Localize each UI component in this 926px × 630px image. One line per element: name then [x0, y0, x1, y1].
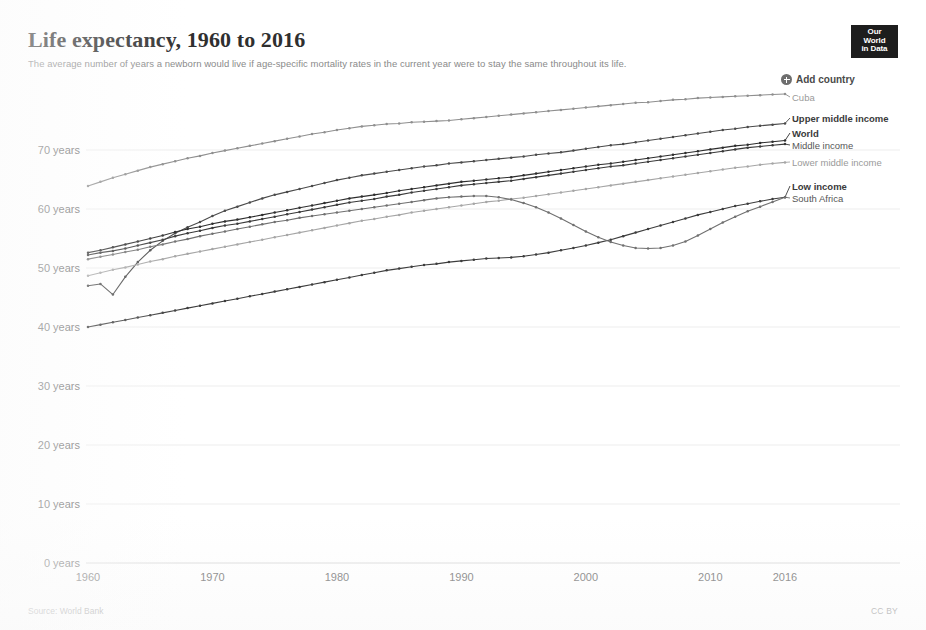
series-marker	[597, 105, 600, 108]
series-marker	[709, 228, 712, 231]
series-marker	[398, 194, 401, 197]
series-marker	[261, 238, 264, 241]
series-marker	[112, 246, 115, 249]
series-marker	[722, 208, 725, 211]
series-marker	[99, 323, 102, 326]
series-marker	[547, 251, 550, 254]
series-markers	[87, 93, 787, 329]
series-marker	[547, 193, 550, 196]
series-marker	[522, 155, 525, 158]
series-marker	[784, 196, 787, 199]
legend-label-cuba[interactable]: Cuba	[792, 93, 815, 103]
series-marker	[286, 191, 289, 194]
series-marker	[398, 214, 401, 217]
x-tick-label: 2000	[574, 571, 598, 583]
series-marker	[647, 228, 650, 231]
series-marker	[149, 260, 152, 263]
series-marker	[535, 172, 538, 175]
series-marker	[535, 176, 538, 179]
series-marker	[547, 174, 550, 177]
series-marker	[273, 236, 276, 239]
series-line[interactable]	[88, 197, 785, 327]
series-marker	[423, 199, 426, 202]
series-marker	[261, 214, 264, 217]
series-marker	[336, 129, 339, 132]
legend-label-world[interactable]: World	[792, 129, 819, 139]
series-marker	[236, 147, 239, 150]
license-note[interactable]: CC BY	[871, 606, 898, 616]
series-marker	[211, 227, 214, 230]
series-marker	[622, 164, 625, 167]
series-marker	[149, 246, 152, 249]
series-marker	[647, 101, 650, 104]
series-marker	[435, 120, 438, 123]
series-line[interactable]	[88, 94, 785, 186]
series-marker	[510, 113, 513, 116]
series-marker	[572, 149, 575, 152]
series-marker	[473, 183, 476, 186]
series-marker	[99, 271, 102, 274]
series-marker	[697, 97, 700, 100]
series-marker	[224, 246, 227, 249]
series-marker	[236, 297, 239, 300]
series-marker	[672, 153, 675, 156]
series-marker	[361, 174, 364, 177]
series-marker	[224, 210, 227, 213]
series-marker	[199, 235, 202, 238]
series-marker	[99, 283, 102, 286]
series-marker	[560, 191, 563, 194]
series-marker	[597, 167, 600, 170]
series-marker	[659, 159, 662, 162]
series-marker	[174, 160, 177, 163]
series-marker	[261, 142, 264, 145]
series-marker	[659, 247, 662, 250]
chart-root: Life expectancy, 1960 to 2016 The averag…	[0, 0, 926, 630]
series-marker	[622, 244, 625, 247]
legend-label-middle-income[interactable]: Middle income	[792, 141, 853, 151]
legend-label-south-africa[interactable]: South Africa	[792, 194, 843, 204]
series-marker	[697, 172, 700, 175]
series-marker	[348, 276, 351, 279]
series-marker	[622, 161, 625, 164]
series-marker	[759, 200, 762, 203]
series-marker	[336, 224, 339, 227]
legend-label-lower-middle-income[interactable]: Lower middle income	[792, 158, 882, 168]
series-marker	[522, 174, 525, 177]
series-marker	[784, 122, 787, 125]
series-marker	[460, 118, 463, 121]
series-marker	[224, 300, 227, 303]
series-marker	[273, 221, 276, 224]
series-marker	[311, 283, 314, 286]
series-marker	[485, 178, 488, 181]
series-marker	[112, 250, 115, 253]
series-marker	[535, 153, 538, 156]
series-line[interactable]	[88, 162, 785, 275]
series-marker	[697, 234, 700, 237]
series-marker	[672, 244, 675, 247]
series-marker	[124, 251, 127, 254]
series-marker	[385, 171, 388, 174]
legend-label-low-income[interactable]: Low income	[792, 182, 847, 192]
series-marker	[522, 202, 525, 205]
series-marker	[224, 230, 227, 233]
series-marker	[186, 253, 189, 256]
series-marker	[547, 110, 550, 113]
series-marker	[622, 235, 625, 238]
series-marker	[236, 243, 239, 246]
series-marker	[784, 93, 787, 96]
series-marker	[759, 145, 762, 148]
legend-label-upper-middle-income[interactable]: Upper middle income	[792, 114, 889, 124]
series-marker	[510, 179, 513, 182]
series-marker	[336, 211, 339, 214]
series-marker	[510, 256, 513, 259]
series-marker	[585, 106, 588, 109]
series-marker	[435, 197, 438, 200]
series-marker	[684, 134, 687, 137]
series-marker	[560, 151, 563, 154]
series-marker	[249, 220, 252, 223]
series-marker	[659, 138, 662, 141]
series-marker	[361, 195, 364, 198]
series-marker	[522, 255, 525, 258]
series-marker	[746, 210, 749, 213]
series-marker	[585, 230, 588, 233]
